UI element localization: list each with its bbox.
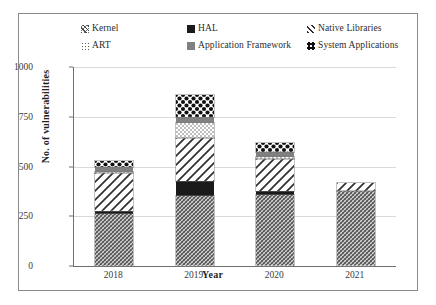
application-framework-swatch: [187, 42, 195, 50]
x-axis-tick-label: 2018: [73, 270, 154, 280]
vulnerabilities-stacked-bar-chart: Kernel ART HAL Application Framework Nat…: [18, 13, 418, 291]
x-axis-tick-label: 2020: [234, 270, 315, 280]
y-axis-tick-label: 500: [0, 162, 33, 172]
bar-segment[interactable]: [176, 181, 214, 196]
bar-segment[interactable]: [256, 159, 294, 192]
legend-column-3: Native Libraries System Applications: [307, 20, 419, 54]
bar-segment[interactable]: [176, 138, 214, 182]
bar-segment[interactable]: [256, 143, 294, 152]
y-axis-tick-label: 1000: [0, 62, 33, 72]
y-axis-title: No. of vulnerabilities: [40, 37, 51, 197]
bar-segment[interactable]: [176, 95, 214, 117]
legend-item-art[interactable]: ART: [81, 37, 191, 54]
bar-segment[interactable]: [176, 123, 214, 138]
chart-legend: Kernel ART HAL Application Framework Nat…: [19, 20, 417, 60]
legend-label-native-libraries: Native Libraries: [318, 23, 382, 34]
legend-label-hal: HAL: [198, 23, 218, 34]
kernel-swatch: [81, 25, 89, 33]
legend-column-2: HAL Application Framework: [187, 20, 312, 54]
legend-item-hal[interactable]: HAL: [187, 20, 312, 37]
y-axis-tick-label: 250: [0, 211, 33, 221]
bar-slot-2021: [316, 67, 397, 266]
bar-segment[interactable]: [337, 183, 375, 191]
bar-segment[interactable]: [256, 157, 294, 159]
bar-segment[interactable]: [337, 191, 375, 266]
legend-item-kernel[interactable]: Kernel: [81, 20, 191, 37]
bar-slot-2019: [155, 67, 236, 266]
bar-stack-2020[interactable]: [256, 143, 294, 266]
y-axis-tick-label: 750: [0, 112, 33, 122]
system-applications-swatch: [307, 42, 315, 50]
legend-label-kernel: Kernel: [92, 23, 118, 34]
bar-stack-2018[interactable]: [95, 161, 133, 266]
art-swatch: [81, 42, 89, 50]
bar-series-container: [74, 67, 396, 266]
hal-swatch: [187, 25, 195, 33]
bar-stack-2019[interactable]: [176, 95, 214, 266]
bar-segment[interactable]: [95, 172, 133, 174]
bar-stack-2021[interactable]: [337, 183, 375, 266]
plot-area: [73, 67, 396, 267]
bar-segment[interactable]: [95, 161, 133, 167]
legend-item-application-framework[interactable]: Application Framework: [187, 37, 312, 54]
x-axis-tick-label: 2019: [154, 270, 235, 280]
bar-segment[interactable]: [95, 214, 133, 266]
legend-item-native-libraries[interactable]: Native Libraries: [307, 20, 419, 37]
bar-segment[interactable]: [256, 195, 294, 266]
bar-segment[interactable]: [95, 173, 133, 211]
legend-label-art: ART: [92, 40, 111, 51]
bar-slot-2018: [74, 67, 155, 266]
y-axis-tick-label: 0: [0, 261, 33, 271]
legend-column-1: Kernel ART: [81, 20, 191, 54]
bar-segment[interactable]: [176, 196, 214, 266]
bar-slot-2020: [235, 67, 316, 266]
legend-label-system-applications: System Applications: [318, 40, 398, 51]
x-axis-tick-label: 2021: [315, 270, 396, 280]
legend-item-system-applications[interactable]: System Applications: [307, 37, 419, 54]
native-libraries-swatch: [307, 25, 315, 33]
legend-label-application-framework: Application Framework: [198, 40, 291, 51]
